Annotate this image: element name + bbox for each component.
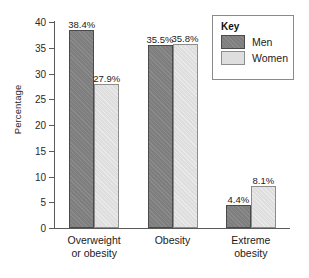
bar-value-label: 8.1% — [253, 175, 275, 186]
bar-value-label: 38.4% — [68, 19, 95, 30]
x-axis-category-label: Extremeobesity — [212, 234, 290, 260]
y-axis-tick-label: 10 — [35, 171, 46, 182]
bar-men-1: 35.5% — [148, 45, 173, 228]
y-axis-tick — [49, 22, 55, 23]
legend-swatch-women-icon — [221, 51, 245, 65]
bar-women-2: 8.1% — [251, 186, 276, 228]
x-axis-line — [54, 228, 290, 229]
bar-value-label: 35.5% — [147, 34, 174, 45]
bar-men-2: 4.4% — [226, 205, 251, 228]
legend-box: Key Men Women — [212, 15, 294, 80]
bar-value-label: 35.8% — [172, 33, 199, 44]
y-axis-tick-label: 15 — [35, 145, 46, 156]
y-axis-tick — [49, 74, 55, 75]
legend-item-men: Men — [221, 35, 293, 49]
y-axis-tick-label: 20 — [35, 120, 46, 131]
y-axis-tick-label: 5 — [40, 197, 46, 208]
bar-women-0: 27.9% — [94, 84, 119, 228]
y-axis-tick-label: 0 — [40, 223, 46, 234]
y-axis-tick — [49, 125, 55, 126]
y-axis-tick — [49, 48, 55, 49]
bar-value-label: 4.4% — [228, 194, 250, 205]
legend-label-women: Women — [252, 52, 288, 64]
legend-swatch-men-icon — [221, 35, 245, 49]
y-axis-tick — [49, 228, 55, 229]
y-axis-tick-label: 30 — [35, 68, 46, 79]
bar-value-label: 27.9% — [93, 73, 120, 84]
y-axis-tick — [49, 151, 55, 152]
legend-item-women: Women — [221, 51, 293, 65]
y-axis-tick — [49, 177, 55, 178]
y-axis-tick-label: 40 — [35, 17, 46, 28]
y-axis-title: Percentage — [12, 65, 23, 155]
bar-men-0: 38.4% — [69, 30, 94, 228]
y-axis-tick-label: 35 — [35, 42, 46, 53]
bar-chart: Percentage 051015202530354038.4%27.9%35.… — [0, 0, 309, 278]
y-axis-tick — [49, 99, 55, 100]
y-axis-tick — [49, 202, 55, 203]
x-axis-category-label: Obesity — [133, 234, 211, 247]
y-axis-tick-label: 25 — [35, 94, 46, 105]
x-axis-category-label: Overweightor obesity — [55, 234, 133, 260]
legend-label-men: Men — [252, 36, 272, 48]
legend-title: Key — [221, 21, 293, 32]
bar-women-1: 35.8% — [173, 44, 198, 228]
